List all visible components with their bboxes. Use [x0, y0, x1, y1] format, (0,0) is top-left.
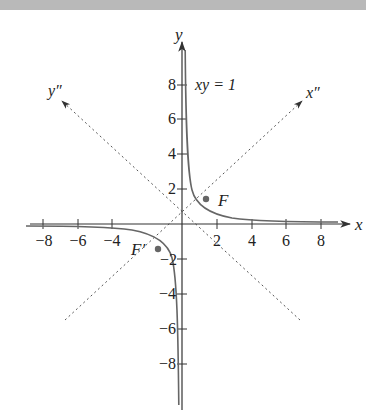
svg-text:−2: −2	[160, 251, 177, 268]
svg-text:−4: −4	[159, 285, 176, 302]
svg-text:−6: −6	[69, 232, 86, 249]
svg-text:6: 6	[282, 232, 290, 249]
focus-label-F-prime: F′	[130, 240, 145, 259]
hyperbola-branch-negative	[26, 226, 179, 405]
svg-text:2: 2	[213, 232, 221, 249]
svg-text:8: 8	[317, 232, 325, 249]
svg-text:4: 4	[248, 232, 256, 249]
x-double-prime-label: x″	[305, 84, 320, 101]
hyperbola-diagram: x y x″ y″ xy = 1 F F′ −8 −6 −4 2 4 6 8 8…	[0, 0, 388, 416]
x-tick-labels: −8 −6 −4 2 4 6 8	[35, 232, 325, 249]
svg-text:−8: −8	[159, 355, 176, 372]
svg-text:4: 4	[168, 145, 176, 162]
focus-point-F	[203, 196, 209, 202]
svg-text:2: 2	[168, 180, 176, 197]
y-double-prime-axis	[62, 101, 300, 320]
y-axis-label: y	[173, 25, 183, 44]
focus-label-F: F	[217, 191, 229, 210]
svg-text:8: 8	[168, 76, 176, 93]
svg-text:−6: −6	[159, 320, 176, 337]
equation-label: xy = 1	[194, 76, 236, 94]
x-double-prime-axis	[65, 101, 302, 320]
svg-text:−4: −4	[103, 232, 120, 249]
svg-text:−8: −8	[35, 232, 52, 249]
svg-text:6: 6	[168, 110, 176, 127]
y-double-prime-label: y″	[46, 82, 62, 100]
x-axis-label: x	[354, 215, 363, 234]
